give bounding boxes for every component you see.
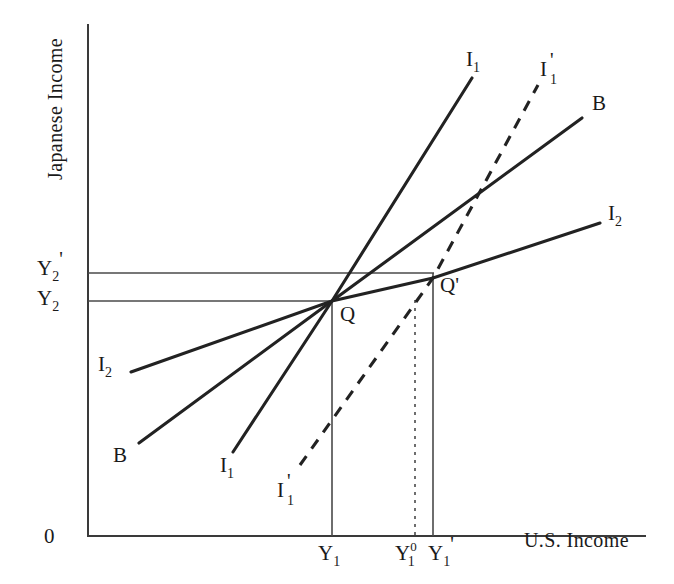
y-tick-labels-group: Y2' Y2	[37, 248, 63, 314]
curves-group	[131, 78, 600, 465]
point-label-Q-prime: Q'	[440, 273, 459, 297]
svg-text:Y1': Y1'	[428, 533, 454, 569]
curve-label-i1prime-lower-left: I1'	[277, 470, 294, 508]
y1-base: Y	[318, 541, 333, 565]
curve-I1-prime	[300, 85, 538, 465]
y2prime-sub: 2	[52, 269, 59, 284]
y-axis-title: Japanese Income	[44, 38, 67, 180]
curve-label-i2-upper-right: I2	[608, 201, 622, 229]
y-tick-label-y2prime: Y2'	[37, 248, 63, 284]
x-tick-labels-group: Y1 Y01 Y1'	[318, 533, 454, 569]
y2-base: Y	[37, 286, 52, 310]
origin-label: 0	[44, 524, 55, 548]
curve-label-b-lower-left: B	[113, 443, 127, 467]
x-axis-title: U.S. Income	[524, 529, 629, 551]
curve-label-i1prime-upper-right: I1'	[540, 49, 557, 87]
point-label-Q: Q	[340, 302, 355, 326]
y1prime-base: Y	[428, 541, 443, 565]
y1zero-sup: 0	[410, 539, 417, 554]
svg-text:Y2': Y2'	[37, 248, 63, 284]
y2prime-prime: '	[59, 248, 63, 270]
x-tick-label-y1prime: Y1'	[428, 533, 454, 569]
x-tick-label-y1: Y1	[318, 541, 340, 569]
curve-B	[139, 118, 582, 443]
y2-sub: 2	[52, 299, 59, 314]
diagram-canvas: Japanese Income U.S. Income 0 Y2' Y2 Y1	[0, 0, 674, 584]
curve-label-i2-lower-left: I2	[98, 352, 112, 380]
x-tick-label-y1zero: Y01	[395, 539, 417, 569]
economics-diagram: Japanese Income U.S. Income 0 Y2' Y2 Y1	[0, 0, 674, 584]
curve-I1	[233, 78, 472, 452]
y1prime-sub: 1	[443, 554, 450, 569]
curve-labels-group: I1 I1' B I2 I2 B I1 I1'	[98, 47, 622, 508]
y1zero-sub: 1	[408, 554, 415, 569]
y2prime-base: Y	[37, 256, 52, 280]
y-tick-label-y2: Y2	[37, 286, 59, 314]
svg-text:Y2: Y2	[37, 286, 59, 314]
reference-lines-group	[88, 273, 434, 536]
curve-label-i1-lower-left: I1	[220, 453, 234, 481]
curve-label-i1-upper-right: I1	[466, 47, 480, 75]
axes-group	[88, 25, 645, 536]
y1prime-prime: '	[450, 533, 454, 555]
curve-label-b-upper-right: B	[592, 91, 606, 115]
svg-text:Y01: Y01	[395, 539, 417, 569]
svg-text:Y1: Y1	[318, 541, 340, 569]
y1-sub: 1	[333, 554, 340, 569]
